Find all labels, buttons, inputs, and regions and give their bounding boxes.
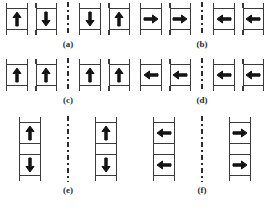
interface-divider [201,116,203,182]
arrow-down-icon [38,11,54,27]
terminal-tick-bottom [174,176,175,181]
terminal-tick-bottom [129,86,130,91]
interface-divider [67,116,69,182]
cell-c-1 [6,64,28,86]
figure-canvas: (a) [0,0,270,210]
cell-a-2 [36,8,58,30]
cell-d-1 [140,64,162,86]
panel-d-body [136,58,268,92]
cell-f-4 [229,154,251,176]
arrow-up-icon [111,67,127,83]
panel-a-caption-slot: (a) [2,36,134,53]
cell-c-2 [36,64,58,86]
arrow-down-icon [98,157,114,173]
terminal-tick-bottom [56,86,57,91]
terminal-tick-bottom [234,86,235,91]
terminal-tick-bottom [56,30,57,35]
panel-a-body [2,2,134,36]
arrow-left-icon [245,67,261,83]
cell-e-2 [95,122,117,144]
panel-b-body [136,2,268,36]
arrow-up-icon [9,67,25,83]
cell-f-1 [153,122,175,144]
interface-divider [67,58,69,92]
arrow-up-icon [98,125,114,141]
cell-d-2 [170,64,192,86]
panel-a: (a) [2,2,134,53]
panel-f: (f) [136,116,268,199]
panel-b: (b) [136,2,268,53]
arrow-right-icon [172,11,188,27]
terminal-tick-bottom [161,86,162,91]
arrow-up-icon [22,125,38,141]
terminal-tick-top [174,117,175,122]
cell-f-3 [153,154,175,176]
cell-d-3 [213,64,235,86]
terminal-tick-bottom [27,86,28,91]
panel-caption-e: (e) [2,185,134,196]
panel-f-right-column [225,122,255,176]
cell-f-2 [229,122,251,144]
terminal-tick-top [40,149,41,154]
terminal-tick-top [190,59,191,64]
arrow-down-icon [82,11,98,27]
terminal-tick-top [263,3,264,8]
panel-caption-a: (a) [2,39,134,50]
arrow-down-icon [22,157,38,173]
panel-e-caption-slot: (e) [2,182,134,199]
panel-e-body [2,116,134,182]
cell-b-3 [213,8,235,30]
panel-caption-b: (b) [136,39,268,50]
arrow-left-icon [156,157,172,173]
terminal-tick-bottom [190,86,191,91]
arrow-left-icon [172,67,188,83]
panel-c: (c) [2,58,134,109]
terminal-tick-top [100,3,101,8]
terminal-tick-top [129,3,130,8]
terminal-tick-top [100,59,101,64]
terminal-tick-top [116,149,117,154]
arrow-up-icon [9,11,25,27]
terminal-tick-bottom [100,86,101,91]
arrow-left-icon [245,11,261,27]
terminal-tick-top [56,3,57,8]
terminal-tick-top [56,59,57,64]
arrow-right-icon [232,157,248,173]
terminal-tick-bottom [100,30,101,35]
panel-e-right-column [91,122,121,176]
terminal-tick-top [27,3,28,8]
arrow-up-icon [38,67,54,83]
terminal-tick-top [234,3,235,8]
arrow-left-icon [216,11,232,27]
terminal-tick-bottom [234,30,235,35]
terminal-tick-top [250,149,251,154]
terminal-tick-bottom [40,176,41,181]
interface-divider [201,2,203,36]
arrow-left-icon [156,125,172,141]
cell-a-3 [79,8,101,30]
cell-e-3 [19,154,41,176]
panel-f-body [136,116,268,182]
interface-divider [201,58,203,92]
terminal-tick-bottom [250,176,251,181]
interface-divider [67,2,69,36]
terminal-tick-top [161,3,162,8]
arrow-right-icon [232,125,248,141]
terminal-tick-top [40,117,41,122]
cell-c-3 [79,64,101,86]
panel-caption-d: (d) [136,95,268,106]
panel-caption-f: (f) [136,185,268,196]
terminal-tick-bottom [263,86,264,91]
cell-e-4 [95,154,117,176]
cell-d-4 [243,64,265,86]
terminal-tick-bottom [27,30,28,35]
terminal-tick-bottom [263,30,264,35]
arrow-up-icon [111,11,127,27]
terminal-tick-top [161,59,162,64]
terminal-tick-bottom [116,176,117,181]
terminal-tick-bottom [161,30,162,35]
terminal-tick-top [129,59,130,64]
panel-c-caption-slot: (c) [2,92,134,109]
terminal-tick-bottom [129,30,130,35]
arrow-right-icon [143,11,159,27]
